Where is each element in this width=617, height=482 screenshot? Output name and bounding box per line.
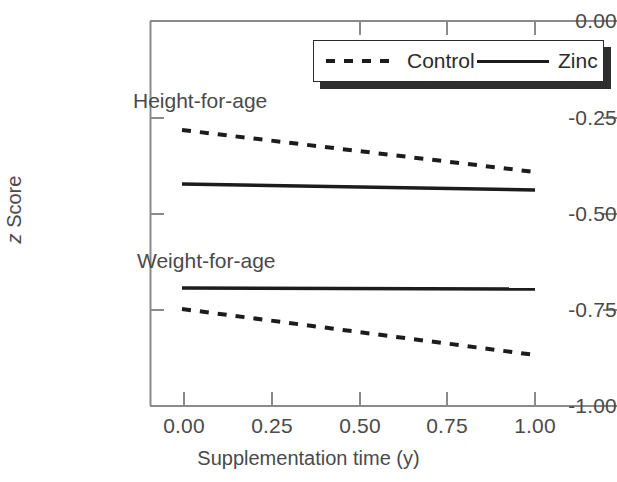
x-tick-label-3: 0.75 [402,414,492,438]
x-tick-marks-top [360,21,535,35]
series-line-weight-zinc [182,288,535,289]
series-line-height-zinc [182,184,535,190]
x-tick-label-4: 1.00 [490,414,580,438]
annotation-height-for-age: Height-for-age [133,89,267,113]
chart-figure: 0.00 -0.25 -0.50 -0.75 -1.00 0.00 0.25 0… [0,0,617,482]
y-axis-title-symbol: z [3,233,25,243]
series-line-height-control [182,130,535,172]
series-line-weight-control [182,309,535,355]
x-tick-label-1: 0.25 [227,414,317,438]
x-axis-title: Supplementation time (y) [0,447,617,470]
legend: Control Zinc [313,40,604,82]
legend-item-zinc: Zinc [477,41,598,81]
y-axis-title: z Score [3,150,26,270]
x-tick-label-2: 0.50 [315,414,405,438]
legend-key-solid-icon [477,54,549,68]
y-axis-title-text: Score [3,176,25,234]
legend-key-dashed-icon [326,54,398,68]
x-tick-marks [184,392,535,406]
y-tick-label-3: -0.75 [525,298,617,322]
legend-item-control: Control [326,41,475,81]
y-tick-label-0: 0.00 [525,9,617,33]
y-tick-label-2: -0.50 [525,202,617,226]
y-tick-label-1: -0.25 [525,106,617,130]
y-tick-marks [150,118,164,310]
annotation-weight-for-age: Weight-for-age [137,249,276,273]
legend-label-zinc: Zinc [558,49,598,73]
x-tick-label-0: 0.00 [139,414,229,438]
legend-label-control: Control [407,49,475,73]
